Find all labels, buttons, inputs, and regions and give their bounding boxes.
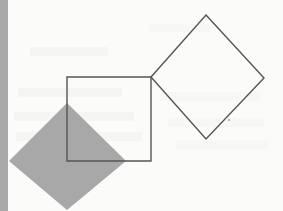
ink-speck-icon xyxy=(228,119,230,121)
geometric-figure-svg xyxy=(0,0,283,211)
left-margin-strip xyxy=(0,0,8,211)
figure-canvas xyxy=(0,0,283,211)
